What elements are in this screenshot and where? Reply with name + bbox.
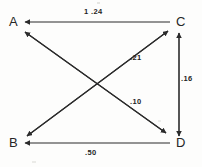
node-d: D	[176, 136, 185, 149]
scan-speck	[32, 161, 36, 163]
node-a: A	[9, 15, 18, 28]
graph-diagram: A C B D 1 .24 .21 .10 .16 .50	[0, 0, 202, 167]
scan-speck	[158, 120, 161, 122]
edge-label-d-to-c: .16	[181, 75, 193, 83]
scan-speck	[97, 2, 100, 4]
node-c: C	[176, 15, 185, 28]
edge-label-b-to-c: .21	[130, 54, 142, 62]
graph-canvas	[0, 0, 202, 167]
edge-d-to-a	[25, 32, 166, 133]
node-b: B	[9, 136, 18, 149]
edge-label-a-to-d: .10	[130, 98, 142, 106]
edge-label-d-to-b: .50	[85, 149, 97, 157]
edge-label-c-to-a: 1 .24	[84, 8, 103, 16]
